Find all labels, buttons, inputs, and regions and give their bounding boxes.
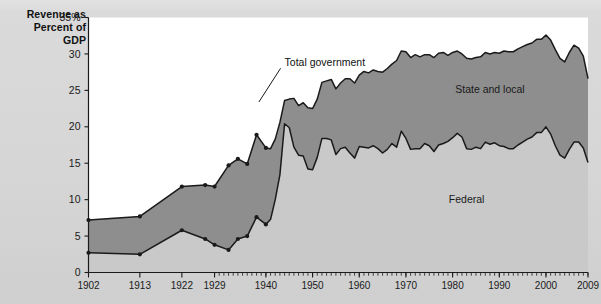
y-tick-label-0: 0 xyxy=(75,266,81,278)
data-point-marker-total-government-1927 xyxy=(203,183,207,187)
x-tick-label-1980: 1980 xyxy=(441,280,464,291)
data-point-marker-federal-1927 xyxy=(203,237,207,241)
x-tick-label-1929: 1929 xyxy=(203,280,226,291)
data-point-marker-federal-1932 xyxy=(226,248,230,252)
x-tick-label-2000: 2000 xyxy=(535,280,558,291)
y-tick-label-30: 30 xyxy=(69,48,81,60)
annotation-federal: Federal xyxy=(449,193,485,205)
data-point-marker-total-government-1922 xyxy=(180,184,184,188)
x-tick-label-1922: 1922 xyxy=(171,280,194,291)
data-point-marker-federal-1936 xyxy=(245,234,249,238)
data-point-marker-federal-1934 xyxy=(236,237,240,241)
data-point-marker-total-government-1938 xyxy=(254,133,258,137)
data-point-marker-total-government-1940 xyxy=(264,146,268,150)
x-tick-label-1990: 1990 xyxy=(488,280,511,291)
y-tick-label-35: 35% xyxy=(59,11,80,23)
y-tick-label-20: 20 xyxy=(69,120,81,132)
x-tick-label-1940: 1940 xyxy=(255,280,278,291)
y-tick-label-10: 10 xyxy=(69,193,81,205)
data-point-marker-federal-1938 xyxy=(254,215,258,219)
annotation-state-and-local: State and local xyxy=(455,83,524,95)
data-point-marker-total-government-1929 xyxy=(212,184,216,188)
data-point-marker-total-government-1934 xyxy=(236,157,240,161)
x-tick-label-1913: 1913 xyxy=(129,280,152,291)
x-tick-label-1902: 1902 xyxy=(77,280,100,291)
x-tick-label-1950: 1950 xyxy=(301,280,324,291)
x-tick-label-1970: 1970 xyxy=(395,280,418,291)
chart-plot-area: 05101520253035% 190219131922192919401950… xyxy=(0,0,601,304)
data-point-marker-total-government-1932 xyxy=(226,163,230,167)
y-tick-label-5: 5 xyxy=(75,230,81,242)
data-point-marker-federal-1929 xyxy=(212,243,216,247)
chart-screenshot: Revenue as Percent of GDP 05101520253035… xyxy=(0,0,601,304)
x-tick-label-1960: 1960 xyxy=(348,280,371,291)
data-point-marker-federal-1922 xyxy=(180,228,184,232)
y-tick-label-15: 15 xyxy=(69,157,81,169)
x-tick-label-2009: 2009 xyxy=(577,280,600,291)
y-tick-label-25: 25 xyxy=(69,84,81,96)
data-point-marker-total-government-1936 xyxy=(245,162,249,166)
data-point-marker-federal-1940 xyxy=(264,222,268,226)
annotation-total-government: Total government xyxy=(285,56,366,68)
data-point-marker-federal-1913 xyxy=(138,252,142,256)
data-point-marker-total-government-1913 xyxy=(138,214,142,218)
revenue-as-percent-of-gdp-chart: 05101520253035% 190219131922192919401950… xyxy=(0,0,601,304)
